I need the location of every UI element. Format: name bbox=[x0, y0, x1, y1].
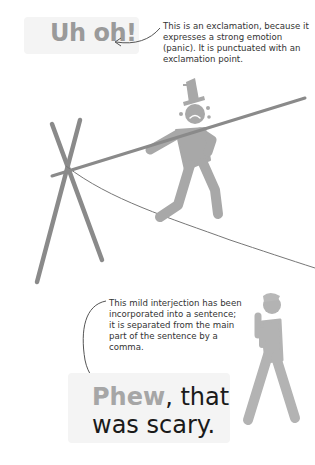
tightrope-stand bbox=[37, 120, 102, 282]
interjection-word: Phew bbox=[92, 383, 165, 411]
sentence-rest-line1: , that bbox=[165, 383, 229, 411]
interjection-sentence: Phew, that was scary. bbox=[92, 383, 229, 439]
tightrope-walker-figure bbox=[150, 78, 218, 217]
tightrope bbox=[66, 166, 315, 268]
sentence-rest-line2: was scary. bbox=[92, 411, 215, 439]
balance-pole bbox=[52, 98, 305, 176]
interjection-annotation: This mild interjection has been incorpor… bbox=[109, 298, 244, 353]
relieved-figure bbox=[248, 293, 295, 420]
arrow-icon bbox=[115, 28, 160, 46]
